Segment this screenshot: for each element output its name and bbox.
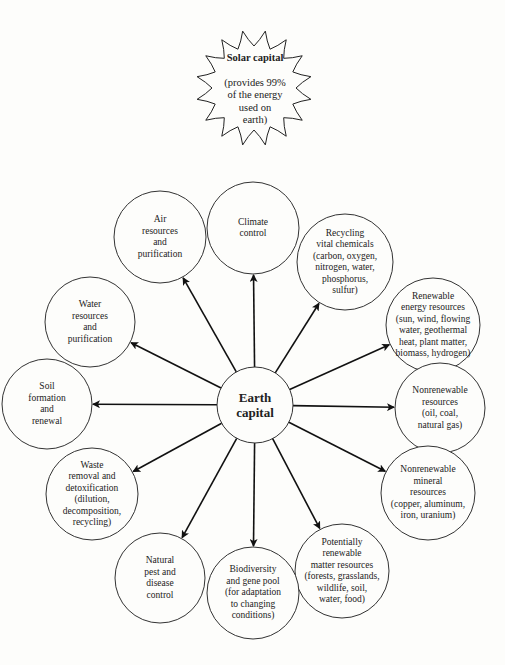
node-soil: Soil formation and renewal: [2, 359, 92, 449]
node-pest-control: Natural pest and disease control: [115, 533, 205, 623]
node-renewable-energy: Renewable energy resources (sun, wind, f…: [386, 278, 480, 372]
node-climate: Climate control: [207, 182, 299, 274]
node-biodiversity: Biodiversity and gene pool (for adaptati…: [207, 547, 299, 639]
node-water: Water resources and purification: [45, 277, 135, 367]
node-air: Air resources and purification: [114, 191, 206, 283]
node-recycling: Recycling vital chemicals (carbon, oxyge…: [297, 214, 393, 310]
node-nonrenewable-mineral: Nonrenewable mineral resources (copper, …: [381, 446, 475, 540]
node-nonrenewable: Nonrenewable resources (oil, coal, natur…: [395, 363, 485, 453]
solar-capital-node: Solar capital (provides 99% of the energ…: [212, 50, 298, 128]
node-potentially-renewable: Potentially renewable matter resources (…: [295, 524, 389, 618]
solar-capital-title: Solar capital: [224, 52, 286, 65]
earth-capital-node: Earth capital: [217, 367, 293, 443]
solar-capital-subtitle: (provides 99% of the energy used on eart…: [224, 77, 286, 127]
node-waste: Waste removal and detoxification (diluti…: [46, 448, 138, 540]
